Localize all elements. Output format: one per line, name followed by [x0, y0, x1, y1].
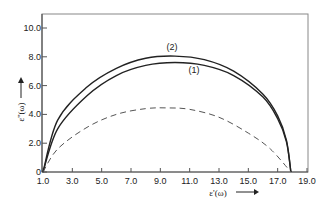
x-tick-label: 19.0 [298, 176, 316, 186]
cole-cole-plot: 1.03.05.07.09.011.013.015.017.019.002.04… [0, 0, 330, 203]
x-tick-label: 17.0 [269, 176, 287, 186]
y-tick-label: 6.0 [28, 81, 41, 91]
x-tick-label: 11.0 [181, 176, 198, 186]
x-tick-label: 1.0 [37, 176, 50, 186]
x-tick-label: 15.0 [240, 176, 258, 186]
x-arrowhead-icon [254, 189, 259, 195]
plot-border [42, 14, 308, 172]
plot-frame [42, 14, 308, 172]
y-tick-label: 0 [36, 167, 41, 177]
x-tick-label: 5.0 [95, 176, 108, 186]
y-tick-label: 8.0 [28, 52, 41, 62]
y-tick-label: 10.0 [23, 23, 41, 33]
curve-annotation: (2) [167, 42, 178, 52]
curve-1 [43, 63, 291, 172]
y-axis-label: ε''(ω) [16, 103, 26, 122]
y-arrowhead-icon [18, 77, 24, 83]
curve-annotation: (1) [189, 65, 200, 75]
curve-2 [43, 56, 291, 172]
x-tick-label: 9.0 [154, 176, 167, 186]
x-tick-label: 7.0 [125, 176, 138, 186]
curves [43, 56, 291, 172]
x-tick-label: 3.0 [66, 176, 79, 186]
y-tick-label: 2.0 [28, 138, 41, 148]
x-tick-label: 13.0 [210, 176, 228, 186]
y-tick-label: 4.0 [28, 109, 41, 119]
curve-dashed [43, 108, 291, 172]
x-axis-label: ε'(ω) [209, 188, 226, 198]
